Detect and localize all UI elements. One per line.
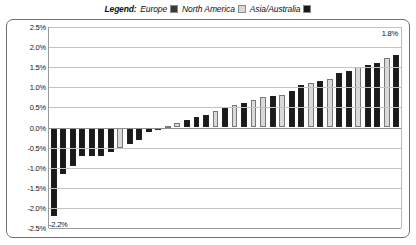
gridline [49, 67, 401, 68]
bar [365, 65, 371, 127]
y-axis-tick-label: 0.5% [30, 103, 46, 112]
legend-title: Legend: [105, 4, 137, 14]
gridline [49, 148, 401, 149]
legend-entry-asia-australia: Asia/Australia [250, 4, 312, 14]
bar [136, 128, 142, 140]
bar [98, 128, 104, 156]
legend-swatch-north-america [238, 5, 246, 13]
legend-entry-europe: Europe [140, 4, 178, 14]
y-axis-tick-label: -1.5% [27, 183, 46, 192]
bar [251, 100, 257, 127]
plot-area-wrapper: 2.5%2.0%1.5%1.0%0.5%0.0%-0.5%-1.0%-1.5%-… [6, 19, 410, 238]
bar [108, 128, 114, 153]
gridline [49, 208, 401, 209]
legend-entry-north-america: North America [182, 4, 246, 14]
y-axis-tick-label: 1.5% [30, 63, 46, 72]
gridline [49, 228, 401, 229]
gridline [49, 188, 401, 189]
y-axis-tick-label: 1.0% [30, 83, 46, 92]
y-axis-tick-label: -1.0% [27, 163, 46, 172]
gridline [49, 87, 401, 88]
y-axis-tick-label: 2.0% [30, 43, 46, 52]
max-value-label: 1.8% [382, 29, 398, 38]
chart-panel: Legend: Europe North America Asia/Austra… [0, 0, 416, 245]
bar [194, 117, 200, 127]
bar [279, 95, 285, 128]
gridline [49, 168, 401, 169]
bar [270, 96, 276, 127]
plot-area: 1.8% -2.2% [48, 27, 402, 228]
y-axis-tick-label: -0.5% [27, 143, 46, 152]
bar [51, 128, 57, 216]
bar [289, 91, 295, 127]
bar [127, 128, 133, 145]
gridline [49, 27, 401, 28]
bar [336, 73, 342, 127]
bar [260, 97, 266, 127]
legend-label-north-america: North America [182, 4, 235, 14]
y-axis-tick-label: -2.0% [27, 203, 46, 212]
legend-label-asia-australia: Asia/Australia [250, 4, 301, 14]
bar [355, 67, 361, 127]
y-axis-tick-label: 0.0% [30, 123, 46, 132]
gridline [49, 107, 401, 108]
y-axis-tick-label: -2.5% [27, 224, 46, 233]
bar [117, 128, 123, 148]
bar [241, 103, 247, 128]
gridline [49, 128, 401, 129]
bar [393, 55, 399, 127]
bar [232, 105, 238, 127]
legend-swatch-europe [170, 5, 178, 13]
bar [384, 58, 390, 127]
y-axis-tick-label: 2.5% [30, 23, 46, 32]
bar [213, 111, 219, 127]
bar [222, 108, 228, 127]
y-axis: 2.5%2.0%1.5%1.0%0.5%0.0%-0.5%-1.0%-1.5%-… [6, 19, 48, 238]
bar [79, 128, 85, 157]
bar [308, 83, 314, 127]
chart-legend: Legend: Europe North America Asia/Austra… [0, 2, 416, 16]
bar [184, 120, 190, 127]
bar [374, 63, 380, 127]
bar [70, 128, 76, 166]
bar [89, 128, 95, 157]
legend-label-europe: Europe [140, 4, 167, 14]
bar [203, 115, 209, 128]
bar [346, 71, 352, 127]
legend-swatch-asia-australia [303, 5, 311, 13]
gridline [49, 47, 401, 48]
bar [298, 85, 304, 127]
